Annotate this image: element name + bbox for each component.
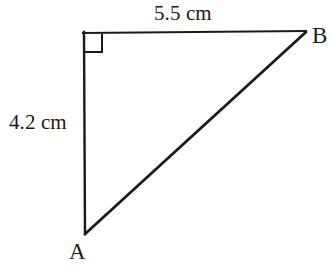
side-length-label-top: 5.5 cm xyxy=(154,3,212,24)
triangle-hypotenuse xyxy=(85,32,306,234)
right-angle-marker-icon xyxy=(84,34,102,52)
vertex-label-b: B xyxy=(312,24,327,47)
triangle-drawing xyxy=(0,0,331,274)
side-length-label-left: 4.2 cm xyxy=(9,112,67,133)
triangle-top-edge xyxy=(83,31,306,33)
triangle-left-edge xyxy=(84,32,85,234)
triangle-figure: 5.5 cm 4.2 cm A B xyxy=(0,0,331,274)
scan-artifact xyxy=(62,256,114,263)
